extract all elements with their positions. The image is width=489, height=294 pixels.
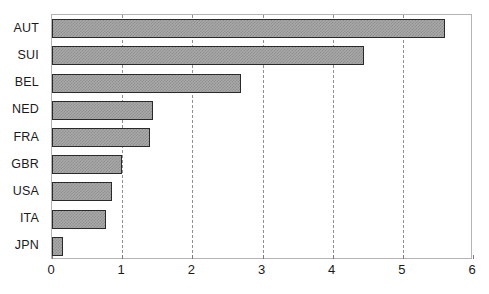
bar-fra	[52, 128, 150, 147]
x-axis-tick-3	[263, 255, 264, 259]
y-axis-label-usa: USA	[13, 184, 39, 198]
x-axis-tick-2	[192, 255, 193, 259]
x-axis-labels: 0123456	[0, 262, 489, 286]
bar-chart: AUTSUIBELNEDFRAGBRUSAITAJPN 0123456	[0, 0, 489, 294]
bar-usa	[52, 182, 112, 201]
plot-area	[51, 14, 472, 259]
bar-gbr	[52, 155, 122, 174]
bar-jpn	[52, 237, 63, 256]
bar-bel	[52, 74, 241, 93]
gridline-5	[403, 15, 404, 258]
bar-aut	[52, 19, 445, 38]
x-axis-tick-1	[122, 255, 123, 259]
bar-ned	[52, 101, 153, 120]
x-axis-tick-label: 1	[118, 262, 125, 277]
y-axis-label-jpn: JPN	[15, 238, 39, 252]
x-axis-tick-label: 0	[47, 262, 54, 277]
x-axis-tick-4	[333, 255, 334, 259]
x-axis-tick-label: 4	[328, 262, 335, 277]
y-axis-label-aut: AUT	[13, 21, 39, 35]
x-axis-tick-label: 6	[468, 262, 475, 277]
x-axis-tick-5	[403, 255, 404, 259]
y-axis-label-gbr: GBR	[11, 157, 39, 171]
x-axis-tick-label: 5	[398, 262, 405, 277]
bar-sui	[52, 46, 364, 65]
y-axis-label-ned: NED	[12, 102, 39, 116]
y-axis-label-sui: SUI	[18, 48, 39, 62]
x-axis-tick-label: 3	[258, 262, 265, 277]
y-axis-label-ita: ITA	[20, 211, 39, 225]
x-axis-tick-6	[473, 255, 474, 259]
y-axis-label-fra: FRA	[13, 130, 39, 144]
y-axis-label-bel: BEL	[15, 75, 39, 89]
x-axis-tick-label: 2	[188, 262, 195, 277]
y-axis-labels: AUTSUIBELNEDFRAGBRUSAITAJPN	[0, 14, 45, 259]
bar-ita	[52, 210, 106, 229]
